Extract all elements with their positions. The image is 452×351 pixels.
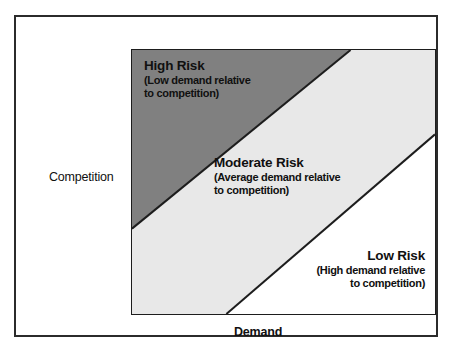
zone-label-low-risk: Low Risk (High demand relative to compet…	[316, 248, 425, 290]
moderate-risk-desc-line2: to competition)	[214, 184, 340, 197]
moderate-risk-desc-line1: (Average demand relative	[214, 171, 340, 184]
low-risk-title: Low Risk	[316, 248, 425, 264]
high-risk-desc-line1: (Low demand relative	[144, 74, 250, 87]
figure-outer-frame: High Risk (Low demand relative to compet…	[14, 15, 438, 337]
low-risk-desc-line1: (High demand relative	[316, 264, 425, 277]
high-risk-desc-line2: to competition)	[144, 87, 250, 100]
plot-area: High Risk (Low demand relative to compet…	[131, 49, 436, 315]
zone-label-moderate-risk: Moderate Risk (Average demand relative t…	[214, 155, 340, 197]
low-risk-desc-line2: to competition)	[316, 277, 425, 290]
risk-matrix-figure: High Risk (Low demand relative to compet…	[0, 0, 452, 351]
zone-label-high-risk: High Risk (Low demand relative to compet…	[144, 58, 250, 100]
y-axis-label: Competition	[49, 170, 114, 184]
high-risk-title: High Risk	[144, 58, 250, 74]
moderate-risk-title: Moderate Risk	[214, 155, 340, 171]
x-axis-label: Demand	[234, 325, 282, 339]
